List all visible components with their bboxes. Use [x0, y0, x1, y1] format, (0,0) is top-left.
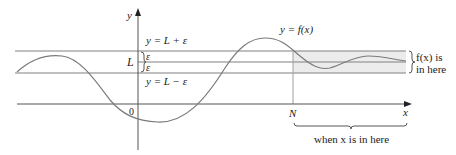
limit-diagram: y x 0 L y = L + ε y = L − ε ε ε y = f(x)…	[0, 0, 456, 155]
when-x-in-here-label: when x is in here	[314, 133, 389, 145]
upper-line-label: y = L + ε	[145, 34, 188, 46]
lower-line-label: y = L − ε	[145, 75, 188, 87]
y-axis-arrow-icon	[135, 8, 141, 16]
x-axis-label: x	[402, 106, 408, 118]
curve-label: y = f(x)	[279, 23, 313, 36]
L-label: L	[126, 55, 134, 69]
epsilon-bottom-label: ε	[146, 62, 150, 73]
origin-label: 0	[129, 106, 134, 117]
fx-brace	[409, 51, 415, 73]
y-axis-label: y	[126, 9, 132, 21]
fx-in-here-line2: in here	[416, 63, 446, 75]
epsilon-top-label: ε	[146, 51, 150, 62]
N-label: N	[288, 107, 297, 119]
x-brace	[294, 123, 407, 129]
